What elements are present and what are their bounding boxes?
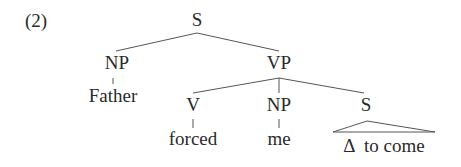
edge-s-vp [197,33,279,51]
leaf-forced: forced [169,129,218,149]
edge-vp-v [193,78,279,93]
node-vp: VP [267,53,291,73]
node-v: V [186,95,200,115]
leaf-delta-to-come: Δ to come [343,136,424,156]
leaf-me: me [267,129,290,149]
example-number: (2) [25,11,47,31]
node-s-root: S [192,10,203,30]
triangle-s [333,121,435,132]
edge-vp-s [279,78,364,93]
node-np-subject: NP [105,53,129,73]
node-np-object: NP [267,95,291,115]
node-s-embedded: S [361,95,372,115]
edge-s-np [116,33,197,51]
leaf-father: Father [89,86,138,106]
